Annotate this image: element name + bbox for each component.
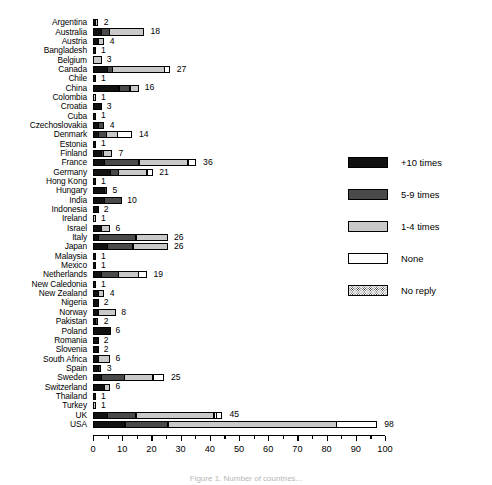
stacked-bar <box>93 318 99 325</box>
axis-tick-minor <box>283 436 284 439</box>
bar-segment <box>93 421 125 428</box>
stacked-bar <box>93 281 96 288</box>
axis-tick-minor <box>341 436 342 439</box>
stacked-bar <box>93 187 108 194</box>
bar-segment <box>93 56 102 63</box>
stacked-bar <box>93 215 96 222</box>
bar-segment <box>93 346 99 353</box>
axis-tick-major <box>356 436 357 441</box>
stacked-bar <box>93 271 148 278</box>
stacked-bar <box>93 122 105 129</box>
bar-total-label: 18 <box>151 27 161 36</box>
bar-track: 14 <box>93 130 492 139</box>
stacked-bar <box>93 421 379 428</box>
bar-total-label: 14 <box>139 130 149 139</box>
bar-segment <box>101 374 124 381</box>
bar-total-label: 1 <box>101 214 106 223</box>
bar-total-label: 2 <box>104 298 109 307</box>
bar-segment <box>117 131 132 138</box>
bar-total-label: 3 <box>107 55 112 64</box>
bar-total-label: 26 <box>174 242 184 251</box>
bar-total-label: 16 <box>145 83 155 92</box>
stacked-bar <box>93 243 169 250</box>
legend-swatch <box>348 157 388 168</box>
stacked-bar <box>93 38 105 45</box>
bar-segment <box>107 412 136 419</box>
category-label: Hungary <box>0 186 90 195</box>
axis-tick-major <box>239 436 240 441</box>
bar-segment <box>147 169 153 176</box>
figure-caption: Figure 1. Number of countries... <box>0 474 492 483</box>
bar-total-label: 2 <box>104 345 109 354</box>
bar-segment <box>103 150 112 157</box>
bar-segment <box>95 19 98 26</box>
bar-total-label: 8 <box>121 308 126 317</box>
bar-segment <box>93 327 111 334</box>
category-label: Slovenia <box>0 345 90 354</box>
stacked-bar <box>93 178 96 185</box>
category-label: Chile <box>0 74 90 83</box>
legend-item: 5-9 times <box>348 182 492 207</box>
bar-track: 3 <box>93 364 492 373</box>
bar-segment <box>112 66 165 73</box>
bar-total-label: 36 <box>203 158 213 167</box>
legend-label: +10 times <box>401 157 442 168</box>
bar-segment <box>93 299 99 306</box>
bar-total-label: 6 <box>116 224 121 233</box>
bar-track: 25 <box>93 373 492 382</box>
bar-segment <box>93 402 96 409</box>
bar-track: 2 <box>93 345 492 354</box>
bar-segment <box>164 66 170 73</box>
bar-segment <box>93 243 108 250</box>
bar-total-label: 21 <box>159 168 169 177</box>
legend-swatch <box>348 285 388 296</box>
stacked-bar <box>93 75 96 82</box>
legend-label: No reply <box>401 285 436 296</box>
bar-total-label: 6 <box>116 354 121 363</box>
stacked-bar <box>93 150 113 157</box>
bar-segment <box>93 141 96 148</box>
axis-tick-label: 40 <box>205 444 215 454</box>
bar-segment <box>136 234 168 241</box>
bar-total-label: 1 <box>101 111 106 120</box>
bar-segment <box>168 421 337 428</box>
bar-segment <box>93 281 96 288</box>
bar-track: 6 <box>93 326 492 335</box>
bar-segment <box>153 374 165 381</box>
bar-total-label: 1 <box>101 401 106 410</box>
bar-total-label: 3 <box>107 102 112 111</box>
axis-tick-label: 60 <box>263 444 273 454</box>
stacked-bar <box>93 206 99 213</box>
bar-total-label: 6 <box>116 382 121 391</box>
stacked-bar <box>93 234 169 241</box>
bar-total-label: 10 <box>127 196 137 205</box>
category-label: Argentina <box>0 18 90 27</box>
bar-track: 1 <box>93 392 492 401</box>
bar-track: 4 <box>93 37 492 46</box>
legend-label: 5-9 times <box>401 189 440 200</box>
bar-total-label: 7 <box>118 149 123 158</box>
bar-segment <box>93 384 105 391</box>
stacked-bar <box>93 197 122 204</box>
bar-total-label: 19 <box>153 270 163 279</box>
bar-segment <box>93 206 99 213</box>
category-label: Turkey <box>0 401 90 410</box>
bar-segment <box>101 225 110 232</box>
stacked-bar <box>93 365 102 372</box>
stacked-bar <box>93 159 198 166</box>
stacked-bar <box>93 131 134 138</box>
axis-tick-minor <box>195 436 196 439</box>
bar-track: 1 <box>93 139 492 148</box>
bar-segment <box>104 159 139 166</box>
bar-segment <box>93 412 108 419</box>
bar-segment <box>98 355 110 362</box>
bar-segment <box>130 85 139 92</box>
bar-track: 6 <box>93 382 492 391</box>
bar-total-label: 1 <box>101 74 106 83</box>
stacked-bar <box>93 85 140 92</box>
stacked-bar <box>93 141 96 148</box>
axis-tick-label: 50 <box>234 444 244 454</box>
bar-track: 3 <box>93 102 492 111</box>
bar-total-label: 2 <box>104 18 109 27</box>
x-axis: 0102030405060708090100 <box>0 435 492 469</box>
